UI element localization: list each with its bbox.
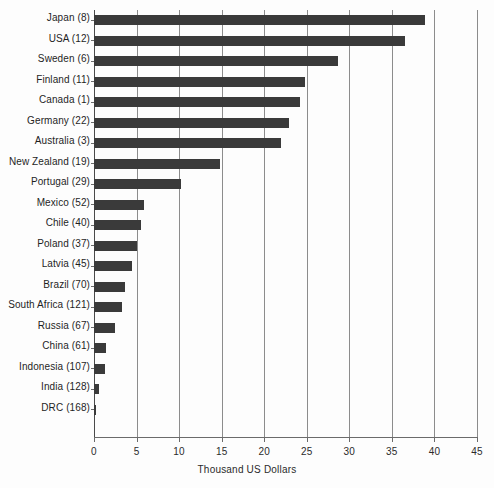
bar <box>94 77 305 87</box>
x-tick <box>264 437 265 442</box>
category-label: Canada (1) <box>39 94 90 105</box>
x-tick <box>137 437 138 442</box>
bar-row: South Africa (121) <box>0 297 494 318</box>
category-label: USA (12) <box>49 33 90 44</box>
category-label: Poland (37) <box>37 238 90 249</box>
category-label: Mexico (52) <box>37 197 90 208</box>
x-axis-line <box>94 437 477 438</box>
x-tick <box>179 437 180 442</box>
x-tick-label: 35 <box>377 446 407 457</box>
bar-row: Sweden (6) <box>0 51 494 72</box>
bar-row: Australia (3) <box>0 133 494 154</box>
category-label: Japan (8) <box>47 12 90 23</box>
category-label: DRC (168) <box>41 402 90 413</box>
x-tick <box>222 437 223 442</box>
bar-row: New Zealand (19) <box>0 154 494 175</box>
category-label: Indonesia (107) <box>19 361 90 372</box>
x-tick <box>477 437 478 442</box>
bar <box>94 343 106 353</box>
bar-row: Latvia (45) <box>0 256 494 277</box>
x-tick-label: 20 <box>249 446 279 457</box>
bar <box>94 282 125 292</box>
bar <box>94 241 137 251</box>
bar <box>94 118 289 128</box>
category-label: Australia (3) <box>35 135 90 146</box>
bar-row: Mexico (52) <box>0 195 494 216</box>
bar <box>94 36 405 46</box>
x-tick-label: 40 <box>419 446 449 457</box>
category-label: India (128) <box>41 381 90 392</box>
bar <box>94 364 105 374</box>
x-tick-label: 30 <box>334 446 364 457</box>
bar-row: Finland (11) <box>0 72 494 93</box>
x-tick-label: 45 <box>462 446 492 457</box>
bar-row: Poland (37) <box>0 236 494 257</box>
bar <box>94 159 220 169</box>
bar-row: Chile (40) <box>0 215 494 236</box>
bar <box>94 97 300 107</box>
x-tick <box>94 437 95 442</box>
category-label: Germany (22) <box>27 115 90 126</box>
bar-row: Indonesia (107) <box>0 359 494 380</box>
bar-row: Japan (8) <box>0 10 494 31</box>
x-axis-title: Thousand US Dollars <box>0 464 494 475</box>
category-label: China (61) <box>42 340 90 351</box>
bar-row: India (128) <box>0 379 494 400</box>
bar <box>94 220 141 230</box>
bar <box>94 200 144 210</box>
x-tick-label: 10 <box>164 446 194 457</box>
bar <box>94 56 338 66</box>
bar-row: DRC (168) <box>0 400 494 421</box>
bar <box>94 179 181 189</box>
bar <box>94 138 281 148</box>
bar-row: Russia (67) <box>0 318 494 339</box>
bar <box>94 384 99 394</box>
bar-row: China (61) <box>0 338 494 359</box>
category-label: Finland (11) <box>36 74 90 85</box>
bar <box>94 302 122 312</box>
bar-row: Germany (22) <box>0 113 494 134</box>
bar-row: Brazil (70) <box>0 277 494 298</box>
x-tick-label: 5 <box>122 446 152 457</box>
category-label: New Zealand (19) <box>9 156 90 167</box>
category-label: Brazil (70) <box>43 279 90 290</box>
category-label: Russia (67) <box>38 320 90 331</box>
bar-row: Portugal (29) <box>0 174 494 195</box>
bar-row: USA (12) <box>0 31 494 52</box>
category-label: Chile (40) <box>46 217 90 228</box>
bar <box>94 15 425 25</box>
category-label: South Africa (121) <box>8 299 90 310</box>
bar-row: Canada (1) <box>0 92 494 113</box>
x-tick-label: 25 <box>292 446 322 457</box>
x-tick <box>392 437 393 442</box>
x-tick <box>434 437 435 442</box>
x-tick <box>307 437 308 442</box>
bar <box>94 261 132 271</box>
category-label: Portugal (29) <box>31 176 90 187</box>
x-tick-label: 0 <box>79 446 109 457</box>
x-tick <box>349 437 350 442</box>
bar <box>94 323 115 333</box>
category-label: Sweden (6) <box>38 53 90 64</box>
x-tick-label: 15 <box>207 446 237 457</box>
bar-chart: Japan (8)USA (12)Sweden (6)Finland (11)C… <box>0 0 494 488</box>
bar <box>94 405 96 415</box>
category-label: Latvia (45) <box>42 258 90 269</box>
